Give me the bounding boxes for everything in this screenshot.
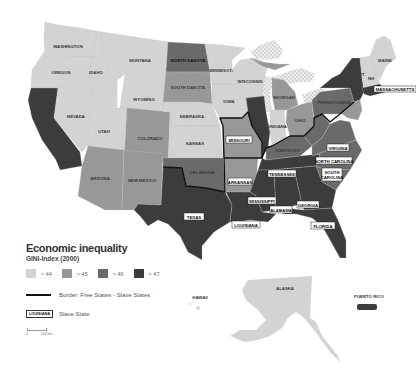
svg-text:NORTH DAKOTA: NORTH DAKOTA [171, 58, 206, 63]
state-north-dakota: NORTH DAKOTA [166, 42, 210, 72]
svg-text:WASHINGTON: WASHINGTON [53, 44, 83, 49]
swatch-gt45 [62, 269, 72, 278]
state-arizona: ARIZONA [78, 146, 124, 210]
svg-text:MISSOURI: MISSOURI [228, 138, 249, 143]
svg-text:VIRGINIA: VIRGINIA [328, 146, 347, 151]
svg-text:FLORIDA: FLORIDA [313, 224, 332, 229]
svg-text:MASSACHUSETTS: MASSACHUSETTS [376, 87, 415, 92]
svg-text:WISCONSIN: WISCONSIN [238, 79, 263, 84]
swatch-gt46 [98, 269, 108, 278]
svg-text:MINNESOTA: MINNESOTA [209, 68, 234, 73]
state-alaska: ALASKA [230, 276, 340, 362]
legend-class-gt45: > 45 [62, 269, 88, 278]
legend-classes: < 44 > 45 > 46 > 47 [26, 269, 226, 278]
scale-bar: 0 200 km [26, 328, 226, 338]
svg-text:SOUTH: SOUTH [324, 170, 339, 175]
svg-text:NH: NH [368, 76, 374, 81]
state-wyoming: WYOMING [120, 74, 166, 112]
svg-text:VT: VT [359, 72, 365, 77]
svg-text:NEBRASKA: NEBRASKA [180, 114, 204, 119]
svg-text:TENNESSEE: TENNESSEE [269, 172, 295, 177]
state-south-dakota: SOUTH DAKOTA [163, 72, 212, 104]
svg-text:OKLAHOMA: OKLAHOMA [189, 170, 214, 175]
svg-text:ALASKA: ALASKA [276, 286, 294, 291]
border-line-icon [26, 294, 51, 296]
swatch-lt44 [26, 269, 36, 278]
svg-text:MAINE: MAINE [378, 58, 392, 63]
svg-text:PENNSYLVANIA: PENNSYLVANIA [317, 100, 350, 105]
state-washington: WASHINGTON [44, 22, 96, 57]
svg-text:CAROLINA: CAROLINA [321, 175, 344, 180]
legend-slave-state: LOUISIANA Slave State [26, 310, 226, 318]
legend-class-gt47: > 47 [134, 269, 160, 278]
svg-text:WYOMING: WYOMING [133, 97, 155, 102]
svg-text:NEVADA: NEVADA [67, 114, 85, 119]
state-florida [284, 208, 346, 258]
state-montana: MONTANA [102, 32, 168, 80]
svg-text:NORTH CAROLINA: NORTH CAROLINA [314, 159, 353, 164]
state-new-mexico: NEW MEXICO [122, 150, 163, 210]
svg-text:ARIZONA: ARIZONA [90, 176, 110, 181]
state-utah: UTAH [88, 91, 127, 150]
slave-state-box-icon: LOUISIANA [26, 310, 53, 318]
map-legend: Economic inequality GINI-Index (2000) < … [26, 242, 226, 338]
svg-text:OREGON: OREGON [51, 70, 70, 75]
svg-text:GEORGIA: GEORGIA [298, 203, 318, 208]
swatch-gt47 [134, 269, 144, 278]
svg-text:INDIANA: INDIANA [269, 124, 287, 129]
svg-text:NEW MEXICO: NEW MEXICO [128, 178, 157, 183]
svg-text:ARKANSAS: ARKANSAS [228, 180, 252, 185]
svg-text:LOUISIANA: LOUISIANA [234, 223, 258, 228]
svg-text:MICHIGAN: MICHIGAN [273, 95, 295, 100]
legend-class-lt44: < 44 [26, 269, 52, 278]
svg-text:TEXAS: TEXAS [187, 215, 201, 220]
state-kansas: KANSAS [168, 126, 223, 158]
scale-bar-icon [27, 328, 47, 331]
svg-text:MONTANA: MONTANA [129, 58, 151, 63]
svg-text:IOWA: IOWA [223, 99, 234, 104]
svg-text:SOUTH DAKOTA: SOUTH DAKOTA [171, 85, 205, 90]
svg-text:OHIO: OHIO [295, 118, 307, 123]
svg-text:MISSISSIPPI: MISSISSIPPI [249, 199, 275, 204]
svg-text:PUERTO RICO: PUERTO RICO [354, 294, 384, 299]
svg-text:COLORADO: COLORADO [137, 136, 163, 141]
svg-text:KANSAS: KANSAS [186, 141, 204, 146]
state-nebraska: NEBRASKA [163, 102, 220, 126]
svg-text:KENTUCKY: KENTUCKY [276, 148, 300, 153]
svg-text:UTAH: UTAH [98, 129, 110, 134]
legend-border: Border: Free States - Slave States [26, 292, 226, 298]
legend-class-gt46: > 46 [98, 269, 124, 278]
legend-title: Economic inequality [26, 242, 226, 254]
svg-text:IDAHO: IDAHO [89, 70, 104, 75]
legend-subtitle: GINI-Index (2000) [26, 255, 226, 262]
state-oregon: OREGON [31, 52, 93, 90]
svg-text:ALABAMA: ALABAMA [270, 208, 292, 213]
territory-puerto-rico: PUERTO RICO [354, 294, 384, 310]
